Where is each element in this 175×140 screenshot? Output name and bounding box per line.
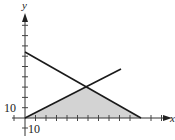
shaded-feasible-region (25, 87, 141, 118)
y-axis-label: y (21, 0, 27, 11)
graph: y x 10 10 (0, 0, 175, 140)
x-tick-label: 10 (28, 122, 40, 136)
y-tick-label: 10 (4, 101, 16, 115)
y-axis-arrow-icon (22, 13, 28, 22)
x-axis-label: x (169, 112, 175, 124)
